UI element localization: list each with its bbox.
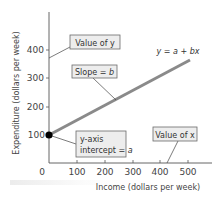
x-tick-200: 200 <box>96 167 113 177</box>
equation-label: y = a + bx <box>155 47 199 56</box>
intercept-point <box>45 131 52 138</box>
x-tick-100: 100 <box>68 167 85 177</box>
linear-equation-chart: 400 300 200 100 0 100 200 300 400 500 In… <box>0 0 222 201</box>
value-of-y-callout: Value of y <box>70 35 120 49</box>
x-tick-300: 300 <box>124 167 141 177</box>
y-tick-100: 100 <box>28 130 45 140</box>
slope-text: Slope = b <box>75 68 114 77</box>
y-tick-200: 200 <box>27 102 44 112</box>
value-of-y-text: Value of y <box>75 39 115 48</box>
intercept-line2: intercept = a <box>80 146 133 155</box>
y-tick-400: 400 <box>27 45 44 55</box>
x-tick-0: 0 <box>39 167 45 177</box>
y-axis-title: Expenditure (dollars per week) <box>12 31 21 154</box>
x-axis-title: Income (dollars per week) <box>96 183 200 192</box>
y-tick-300: 300 <box>27 73 44 83</box>
x-tick-400: 400 <box>151 167 168 177</box>
value-of-x-text: Value of x <box>155 131 195 140</box>
line-y-equals-a-plus-bx <box>49 60 190 135</box>
value-of-x-callout: Value of x <box>153 127 197 141</box>
intercept-callout: y-axis intercept = a <box>76 131 133 157</box>
intercept-line1: y-axis <box>80 135 104 144</box>
slope-callout: Slope = b <box>72 65 117 78</box>
x-tick-500: 500 <box>179 167 196 177</box>
